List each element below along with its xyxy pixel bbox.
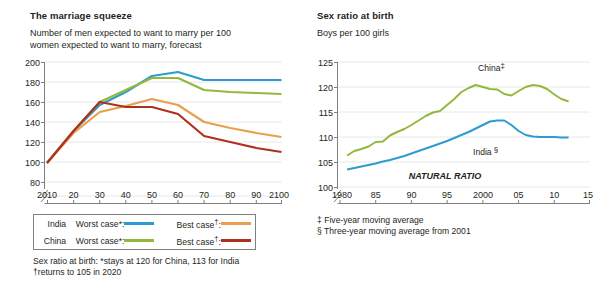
legend-china-worst-label: Worst case*: — [66, 232, 124, 249]
left-chart-title: The marriage squeeze — [30, 10, 132, 21]
svg-text:120: 120 — [25, 138, 40, 148]
annotation-china-text: China — [478, 63, 501, 73]
svg-text:80: 80 — [30, 178, 40, 188]
legend-country-china: China — [34, 232, 66, 249]
svg-text:140: 140 — [25, 118, 40, 128]
svg-text:180: 180 — [25, 78, 40, 88]
right-footnote-mark-2: § — [317, 226, 322, 236]
left-subtitle-line2: women expected to want to marry, forecas… — [30, 40, 201, 50]
left-chart-panel: The marriage squeeze Number of men expec… — [0, 0, 300, 286]
annotation-china: China‡ — [478, 61, 505, 73]
svg-text:120: 120 — [318, 83, 333, 93]
svg-text:160: 160 — [25, 98, 40, 108]
right-x-axis-labels: 1980 85 90 95 2000 05 10 15 — [300, 190, 598, 204]
left-series-india-best — [47, 99, 282, 163]
svg-text:125: 125 — [318, 58, 333, 68]
left-subtitle-line1: Number of men expected to want to marry … — [30, 28, 231, 38]
annotation-india-text: India — [473, 147, 492, 157]
right-gridlines — [337, 62, 590, 187]
right-footnote-text-1: Five-year moving average — [324, 215, 423, 225]
legend-china-worst-swatch — [124, 232, 158, 249]
left-chart-subtitle: Number of men expected to want to marry … — [30, 28, 292, 51]
annotation-natural-ratio: NATURAL RATIO — [409, 171, 482, 181]
svg-text:200: 200 — [25, 58, 40, 68]
svg-text:110: 110 — [319, 133, 333, 143]
left-y-axis — [41, 62, 45, 189]
left-footnote-line2: †returns to 105 in 2020 — [33, 267, 121, 277]
right-chart-title: Sex ratio at birth — [317, 10, 394, 21]
legend-india-best-swatch — [221, 215, 255, 232]
right-footnote-mark-1: ‡ — [317, 215, 322, 225]
right-chart-plot: 125 120 115 110 105 100 — [300, 55, 598, 205]
right-chart-panel: Sex ratio at birth Boys per 100 girls 12… — [300, 0, 598, 286]
right-footnote-line2: § Three-year moving average from 2001 — [317, 226, 587, 237]
legend-country-india: India — [34, 215, 66, 232]
left-x-axis-labels: 2010 20 30 40 50 60 70 80 90 2100 — [0, 190, 300, 204]
left-series-india-worst — [47, 72, 282, 163]
figure-root: The marriage squeeze Number of men expec… — [0, 0, 598, 286]
right-footnote-text-2: Three-year moving average from 2001 — [324, 226, 471, 236]
left-y-axis-labels: 200 180 160 140 120 100 80 — [25, 58, 40, 188]
left-series-china-best — [47, 102, 282, 163]
left-chart-footnote: Sex ratio at birth: *stays at 120 for Ch… — [33, 256, 298, 277]
legend-row-india: India Worst case*: Best case†: — [34, 215, 255, 232]
annotation-india: India § — [473, 145, 498, 157]
left-chart-legend: India Worst case*: Best case†: China Wor… — [33, 214, 256, 250]
legend-row-china: China Worst case*: Best case†: — [34, 232, 255, 249]
legend-india-worst-swatch — [124, 215, 158, 232]
right-y-axis-labels: 125 120 115 110 105 100 — [318, 58, 333, 193]
right-chart-footnote: ‡ Five-year moving average § Three-year … — [317, 215, 587, 236]
legend-china-best-label: Best case†: — [159, 232, 221, 249]
svg-text:115: 115 — [319, 108, 333, 118]
right-footnote-line1: ‡ Five-year moving average — [317, 215, 587, 226]
svg-text:100: 100 — [25, 158, 40, 168]
legend-china-best-swatch — [221, 232, 255, 249]
left-chart-plot: 200 180 160 140 120 100 80 — [0, 55, 300, 205]
legend-india-worst-label: Worst case*: — [66, 215, 124, 232]
right-chart-subtitle: Boys per 100 girls — [317, 28, 577, 40]
legend-india-best-label: Best case†: — [159, 215, 221, 232]
right-y-axis — [334, 62, 338, 189]
svg-text:105: 105 — [318, 158, 333, 168]
right-series-china — [347, 85, 568, 156]
left-footnote-line1: Sex ratio at birth: *stays at 120 for Ch… — [33, 256, 239, 266]
